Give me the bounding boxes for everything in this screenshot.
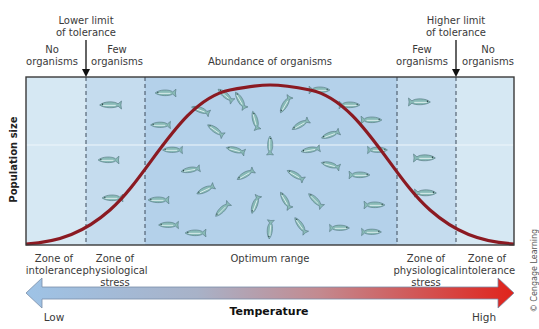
zone-stress-right-label: Zone of physiological stress (393, 253, 458, 289)
zone-intolerance-left-label: Zone of intolerance (26, 253, 82, 277)
optimum-range-label: Optimum range (231, 253, 310, 265)
higher-limit-arrow (452, 40, 460, 77)
no-organisms-right-label: No organisms (462, 44, 514, 68)
x-axis-high-label: High (472, 311, 496, 323)
lower-limit-label: Lower limit of tolerance (56, 15, 116, 39)
x-axis-title: Temperature (229, 305, 308, 318)
higher-limit-label: Higher limit of tolerance (426, 15, 486, 39)
y-axis-label: Population size (8, 115, 19, 205)
few-organisms-left-label: Few organisms (91, 44, 143, 68)
lower-limit-arrow (82, 40, 90, 77)
zone-bg-intolerance-right (456, 77, 514, 245)
no-organisms-left-label: No organisms (26, 44, 78, 68)
zone-intolerance-right-label: Zone of intolerance (459, 253, 515, 277)
few-organisms-right-label: Few organisms (396, 44, 448, 68)
zone-bg-optimum (145, 77, 397, 245)
copyright-notice: © Cengage Learning (530, 221, 539, 321)
zone-stress-left-label: Zone of physiological stress (82, 253, 147, 289)
abundance-label: Abundance of organisms (208, 56, 332, 68)
zone-bg-intolerance-left (26, 77, 86, 245)
x-axis-low-label: Low (44, 311, 65, 323)
